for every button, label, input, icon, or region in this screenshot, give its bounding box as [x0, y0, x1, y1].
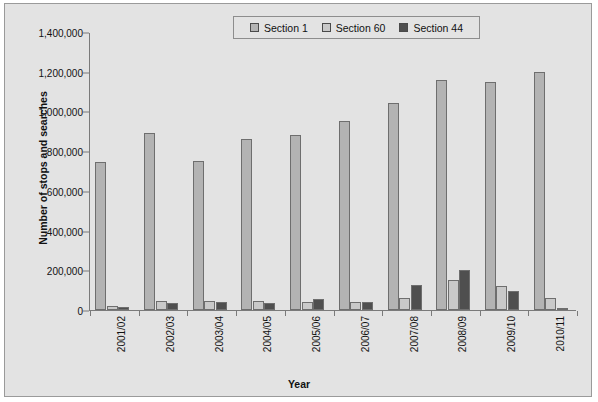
bar[interactable] [290, 135, 301, 310]
bar-group [95, 33, 129, 310]
bar-group [339, 33, 373, 310]
bar-group [144, 33, 178, 310]
bar[interactable] [264, 303, 275, 310]
plot-area [89, 33, 576, 311]
bar-group [485, 33, 519, 310]
legend-item-label: Section 60 [336, 22, 386, 34]
bar-group [388, 33, 422, 310]
legend-swatch-icon [399, 23, 408, 32]
bar-group [241, 33, 275, 310]
bar[interactable] [204, 301, 215, 310]
chart-frame: Section 1Section 60Section 44 Number of … [4, 3, 592, 397]
x-axis-tick-mark [577, 311, 578, 316]
x-axis-tick-label: 2004/05 [262, 316, 273, 352]
legend-item[interactable]: Section 1 [250, 22, 308, 34]
y-axis-tick-label: 1,000,000 [39, 107, 84, 118]
bar[interactable] [302, 302, 313, 310]
bar[interactable] [485, 82, 496, 310]
y-axis-tick-label: 200,000 [47, 266, 83, 277]
bar[interactable] [156, 301, 167, 310]
bar[interactable] [95, 162, 106, 310]
bar-group [436, 33, 470, 310]
bar[interactable] [411, 285, 422, 310]
bar[interactable] [118, 307, 129, 310]
x-axis-tick-label: 2005/06 [311, 316, 322, 352]
bar[interactable] [496, 286, 507, 310]
bar[interactable] [534, 72, 545, 310]
legend-item-label: Section 44 [413, 22, 463, 34]
chart-legend: Section 1Section 60Section 44 [233, 16, 480, 39]
bar[interactable] [144, 133, 155, 310]
bar[interactable] [167, 303, 178, 310]
bar[interactable] [313, 299, 324, 310]
bar[interactable] [545, 298, 556, 310]
y-axis-tick-label: 400,000 [47, 226, 83, 237]
legend-item[interactable]: Section 44 [399, 22, 463, 34]
x-axis-tick-label: 2009/10 [506, 316, 517, 352]
bar-group [193, 33, 227, 310]
stop-and-search-bar-chart: Section 1Section 60Section 44 Number of … [0, 0, 598, 402]
bar[interactable] [216, 302, 227, 310]
y-axis-tick-label: 1,400,000 [39, 28, 84, 39]
legend-swatch-icon [250, 23, 259, 32]
bar-group [290, 33, 324, 310]
x-axis-tick-label: 2001/02 [116, 316, 127, 352]
x-axis-title: Year [5, 378, 593, 390]
bar[interactable] [399, 298, 410, 310]
bars-layer [90, 33, 576, 310]
bar[interactable] [253, 301, 264, 310]
x-axis-tick-label: 2006/07 [360, 316, 371, 352]
legend-item-label: Section 1 [264, 22, 308, 34]
legend-item[interactable]: Section 60 [322, 22, 386, 34]
y-axis-tick-label: 800,000 [47, 147, 83, 158]
y-axis-tick-label: 1,200,000 [39, 67, 84, 78]
x-axis-tick-label: 2002/03 [165, 316, 176, 352]
y-axis-tick-labels: 0200,000400,000600,000800,0001,000,0001,… [5, 33, 89, 311]
bar[interactable] [459, 270, 470, 310]
bar[interactable] [339, 121, 350, 310]
bar[interactable] [350, 302, 361, 310]
x-axis-tick-label: 2003/04 [214, 316, 225, 352]
bar[interactable] [193, 161, 204, 310]
x-axis-tick-label: 2010/11 [555, 316, 566, 351]
bar-group [534, 33, 568, 310]
bar[interactable] [448, 280, 459, 310]
bar[interactable] [388, 103, 399, 311]
x-axis-tick-label: 2007/08 [409, 316, 420, 352]
bar[interactable] [557, 308, 568, 310]
bar[interactable] [508, 291, 519, 310]
x-axis-tick-label: 2008/09 [457, 316, 468, 352]
y-axis-tick-label: 600,000 [47, 186, 83, 197]
bar[interactable] [436, 80, 447, 310]
x-axis-tick-labels: 2001/022002/032003/042004/052005/062006/… [89, 316, 576, 376]
bar[interactable] [107, 306, 118, 310]
legend-swatch-icon [322, 23, 331, 32]
bar[interactable] [241, 139, 252, 310]
bar[interactable] [362, 302, 373, 310]
